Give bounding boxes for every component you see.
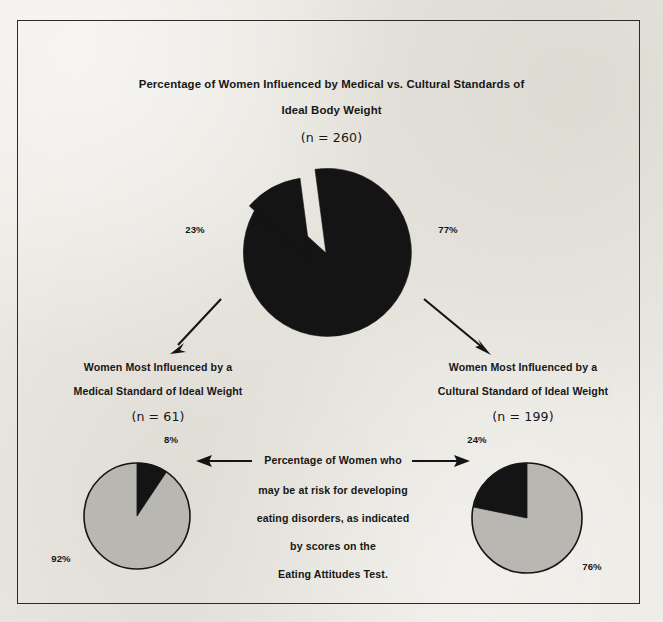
arrow-line-to-medical-branch: [178, 299, 221, 345]
chart-vector-layer: [0, 0, 663, 622]
figure-chart-root: Percentage of Women Influenced by Medica…: [0, 0, 663, 622]
caption-line-2: may be at risk for developing: [213, 484, 453, 496]
medical-pie-label-92: 92%: [36, 553, 86, 564]
caption-line-4: by scores on the: [213, 540, 453, 552]
cultural-pie-label-76: 76%: [567, 561, 617, 572]
medical-branch-heading-line-1: Women Most Influenced by a: [8, 361, 308, 373]
caption-line-5: Eating Attitudes Test.: [213, 568, 453, 580]
main-pie-label-23: 23%: [165, 224, 225, 235]
medical-pie-label-8: 8%: [146, 434, 196, 445]
medical-branch-sample-size: (n = 61): [8, 409, 308, 424]
arrow-line-to-cultural-branch: [424, 299, 482, 347]
cultural-branch-sample-size: (n = 199): [383, 409, 663, 424]
caption-line-3: eating disorders, as indicated: [213, 512, 453, 524]
medical-branch-heading-line-2: Medical Standard of Ideal Weight: [8, 385, 308, 397]
arrow-head-to-cultural-branch: [475, 339, 491, 355]
caption-line-1: Percentage of Women who: [233, 454, 433, 466]
cultural-branch-heading-line-2: Cultural Standard of Ideal Weight: [383, 385, 663, 397]
cultural-branch-heading-line-1: Women Most Influenced by a: [383, 361, 663, 373]
cultural-pie-label-24: 24%: [452, 434, 502, 445]
main-pie-label-77: 77%: [418, 224, 478, 235]
